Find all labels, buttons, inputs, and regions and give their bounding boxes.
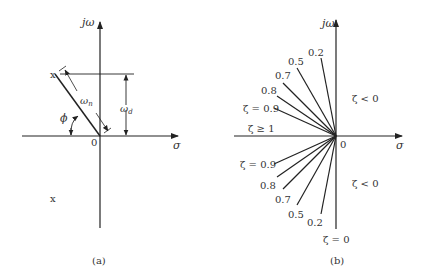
region-zeta-negative-lower: ζ < 0: [352, 178, 379, 189]
s-plane-diagram: jω σ 0 ωd ωn ϕ x x (a) jω σ 0: [0, 0, 422, 279]
origin-label: 0: [91, 137, 97, 148]
zeta-0.9-upper-line: [274, 108, 336, 136]
zeta-0.5-lower-line: [297, 136, 336, 205]
imag-axis-label: jω: [79, 16, 94, 29]
real-axis-label: σ: [173, 139, 181, 152]
zeta-0.5-upper-line: [297, 68, 336, 136]
label-zeta-ge-1: ζ ≥ 1: [248, 123, 275, 134]
label-zeta-0.7-upper: 0.7: [275, 70, 291, 81]
label-zeta-0.8-upper: 0.8: [261, 85, 277, 96]
label-zeta-0.9-lower: ζ = 0.9: [240, 159, 276, 170]
label-zeta-0.5-lower: 0.5: [288, 209, 304, 220]
origin-label-b: 0: [340, 139, 346, 150]
phi-angle-arc: [71, 116, 78, 135]
label-zeta-0.5-upper: 0.5: [288, 56, 304, 67]
zeta-0.8-upper-line: [277, 96, 336, 136]
zeta-0.2-upper-line: [321, 58, 336, 136]
zeta-0.8-lower-line: [277, 136, 336, 177]
imag-axis-label-b: jω: [319, 17, 334, 30]
pole-lower-marker: x: [50, 193, 56, 204]
omega-n-dimension-lower: [96, 113, 108, 131]
real-axis-label-b: σ: [396, 139, 404, 152]
label-zeta-0.8-lower: 0.8: [260, 180, 276, 191]
region-zeta-negative-upper: ζ < 0: [352, 93, 379, 104]
caption-a: (a): [92, 255, 106, 266]
panel-a: jω σ 0 ωd ωn ϕ x x (a): [22, 16, 181, 266]
caption-b: (b): [330, 255, 344, 266]
label-zeta-0.2-upper: 0.2: [308, 47, 324, 58]
panel-b: jω σ 0 0.2 0.5 0.7 0.8 ζ = 0.9 ζ ≥ 1 ζ =…: [234, 17, 404, 266]
zeta-0.2-lower-line: [321, 136, 336, 214]
omega-n-dimension-upper: [65, 70, 77, 91]
pole-upper-marker: x: [50, 69, 56, 80]
label-zeta-0: ζ = 0: [323, 234, 350, 245]
label-zeta-0.9-upper: ζ = 0.9: [243, 103, 279, 114]
zeta-0.7-lower-line: [283, 136, 336, 189]
omega-n-label: ωn: [80, 95, 93, 108]
zeta-0.9-lower-line: [274, 136, 336, 164]
omega-d-label: ωd: [120, 103, 133, 116]
phi-label: ϕ: [60, 112, 68, 125]
label-zeta-0.7-lower: 0.7: [275, 194, 291, 205]
pole-vector: [55, 74, 100, 136]
label-zeta-0.2-lower: 0.2: [307, 217, 323, 228]
